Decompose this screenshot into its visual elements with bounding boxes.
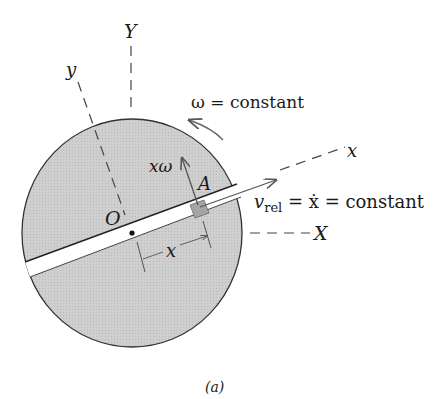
X-axis-label: X <box>312 222 329 244</box>
x-axis-label: x <box>347 140 357 161</box>
origin-point <box>129 230 134 235</box>
Y-axis-label: Y <box>124 20 139 42</box>
y-axis-label: y <box>65 59 77 80</box>
v-rel-label: vrel = ẋ = constant <box>254 191 425 215</box>
point-A-label: A <box>196 173 211 194</box>
omega-label: ω = constant <box>191 92 304 112</box>
omega-rotation-arrow <box>189 120 223 140</box>
x-omega-label: xω <box>149 156 173 176</box>
x-axis-line <box>280 147 345 170</box>
rotating-disk-diagram: Y y x X O A xω ω = constant vrel = ẋ = c… <box>0 0 435 399</box>
figure-caption: (a) <box>205 379 224 395</box>
distance-label: x <box>166 240 176 261</box>
origin-label: O <box>105 207 121 229</box>
